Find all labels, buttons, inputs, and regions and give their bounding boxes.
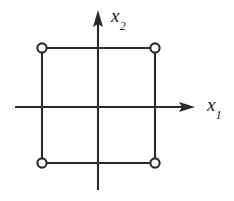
- point-bottom-left: [37, 158, 46, 167]
- point-bottom-right: [150, 158, 159, 167]
- y-axis-label: x2: [111, 6, 126, 29]
- y-axis-label-subscript: 2: [120, 19, 126, 33]
- diagram-canvas: [0, 0, 234, 201]
- x-axis-label: x1: [207, 95, 222, 118]
- y-axis-label-base: x: [111, 5, 120, 26]
- point-top-left: [37, 43, 46, 52]
- figure-coordinate-diagram: x2 x1: [0, 0, 234, 201]
- x-axis-label-base: x: [207, 94, 216, 115]
- x-axis-label-subscript: 1: [216, 108, 222, 122]
- point-top-right: [150, 43, 159, 52]
